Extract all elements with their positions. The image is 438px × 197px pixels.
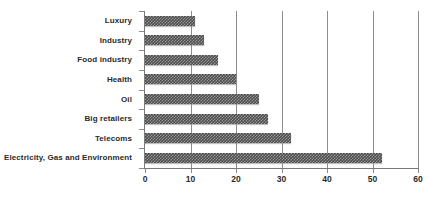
y-axis-tick [139,90,144,91]
bar-slot [145,11,418,31]
category-label: Food industry [77,50,132,70]
category-label: Electricity, Gas and Environment [4,148,132,168]
x-axis-tick [327,169,328,173]
value-axis-tick-label: 60 [413,174,422,184]
bar[interactable] [145,16,195,26]
y-axis-tick [139,31,144,32]
bar-slot [145,90,418,110]
bar[interactable] [145,74,236,84]
gridline [418,11,419,168]
value-axis-tick-label: 20 [231,174,240,184]
bar-slot [145,148,418,168]
y-axis-tick [139,70,144,71]
category-label: Industry [100,31,132,51]
category-label: Health [107,70,132,90]
bar[interactable] [145,114,268,124]
category-label: Oil [121,90,132,110]
category-label: Telecoms [95,129,132,149]
y-axis-tick [139,148,144,149]
value-axis-tick-label: 30 [277,174,286,184]
bar-slot [145,50,418,70]
bar[interactable] [145,55,218,65]
category-axis-labels: LuxuryIndustryFood industryHealthOilBig … [0,11,140,168]
y-axis-tick [139,129,144,130]
x-axis-tick [282,169,283,173]
x-axis-tick [373,169,374,173]
value-axis-tick-label: 0 [143,174,148,184]
bar-chart: LuxuryIndustryFood industryHealthOilBig … [0,0,438,197]
x-axis-tick [236,169,237,173]
bar[interactable] [145,133,291,143]
value-axis-labels: 0102030405060 [0,174,438,190]
bar[interactable] [145,153,382,163]
value-axis-tick-label: 50 [368,174,377,184]
bar-slot [145,109,418,129]
value-axis-tick-label: 40 [322,174,331,184]
bar-slot [145,31,418,51]
bar-slot [145,70,418,90]
x-axis-tick [191,169,192,173]
bar-slot [145,129,418,149]
bar[interactable] [145,94,259,104]
bar[interactable] [145,35,204,45]
y-axis-tick [139,11,144,12]
y-axis-tick [139,109,144,110]
y-axis-tick [139,168,144,169]
plot-area [145,11,418,168]
x-axis-tick [418,169,419,173]
y-axis-tick [139,50,144,51]
value-axis-tick-label: 10 [186,174,195,184]
x-axis-tick [145,169,146,173]
category-label: Big retailers [84,109,132,129]
category-label: Luxury [105,11,132,31]
